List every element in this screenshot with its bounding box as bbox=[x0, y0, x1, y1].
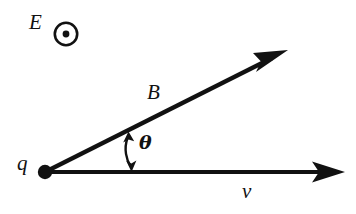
charge-label: q bbox=[17, 153, 28, 174]
electric-field-label: E bbox=[29, 12, 42, 33]
circle-dot-center bbox=[63, 31, 70, 38]
diagram-canvas bbox=[0, 0, 356, 214]
physics-vector-diagram: E B q v θ bbox=[0, 0, 356, 214]
circle-dot-icon bbox=[55, 23, 77, 45]
point-charge-dot bbox=[38, 165, 52, 179]
velocity-vector bbox=[45, 162, 345, 183]
velocity-label: v bbox=[242, 181, 251, 202]
angle-label: θ bbox=[139, 133, 152, 152]
magnetic-field-vector-arrowhead bbox=[253, 50, 288, 72]
angle-marker bbox=[123, 132, 136, 173]
magnetic-field-vector bbox=[45, 50, 288, 172]
magnetic-field-vector-shaft bbox=[45, 58, 272, 172]
magnetic-field-label: B bbox=[147, 82, 160, 103]
